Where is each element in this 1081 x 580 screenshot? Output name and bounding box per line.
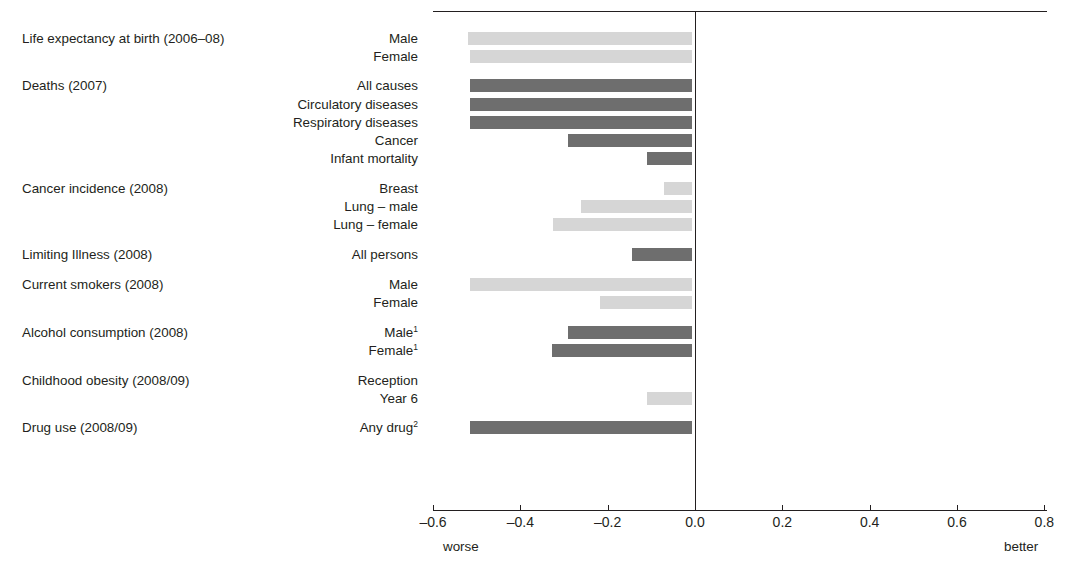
group-label: Cancer incidence (2008) — [22, 182, 168, 196]
item-label: Male — [160, 278, 418, 292]
axis-tick — [782, 505, 783, 511]
footnote-marker: 1 — [413, 341, 418, 351]
bar — [470, 421, 692, 434]
footnote-marker: 1 — [413, 323, 418, 333]
bar — [647, 392, 692, 405]
bar — [470, 79, 692, 92]
bar — [600, 296, 692, 309]
group-label: Deaths (2007) — [22, 79, 107, 93]
bar — [664, 182, 692, 195]
axis-tick — [608, 505, 609, 511]
axis-tick-label: 0.4 — [860, 514, 879, 530]
item-label: Respiratory diseases — [160, 116, 418, 130]
bar — [632, 248, 692, 261]
group-label: Drug use (2008/09) — [22, 421, 137, 435]
item-label: All causes — [160, 79, 418, 93]
item-label: Infant mortality — [160, 152, 418, 166]
bar — [552, 344, 692, 357]
axis-tick — [957, 505, 958, 511]
bar — [553, 218, 692, 231]
axis-tick-label: 0.6 — [947, 514, 966, 530]
axis-tick-label: 0.0 — [685, 514, 704, 530]
item-label: All persons — [160, 248, 418, 262]
footnote-marker: 2 — [413, 419, 418, 429]
item-label: Lung – female — [160, 218, 418, 232]
item-label: Female1 — [160, 344, 418, 358]
zero-baseline — [695, 12, 696, 510]
axis-tick — [433, 505, 434, 511]
group-label: Current smokers (2008) — [22, 278, 163, 292]
axis-tick-label: 0.2 — [773, 514, 792, 530]
bar — [470, 98, 692, 111]
item-label: Year 6 — [160, 392, 418, 406]
x-axis-line — [433, 510, 1047, 511]
axis-tick — [520, 505, 521, 511]
axis-tick-label: –0.6 — [419, 514, 446, 530]
bar — [468, 32, 692, 45]
item-label: Circulatory diseases — [160, 98, 418, 112]
item-label-column: MaleFemaleAll causesCirculatory diseases… — [160, 0, 418, 520]
item-label: Female — [160, 50, 418, 64]
plot-area — [433, 12, 1047, 512]
axis-tick-label: –0.2 — [594, 514, 621, 530]
bar — [647, 152, 692, 165]
item-label: Reception — [160, 374, 418, 388]
axis-caption-better: better — [1004, 539, 1038, 554]
axis-caption-worse: worse — [443, 539, 479, 554]
bar — [470, 116, 692, 129]
group-label: Limiting Illness (2008) — [22, 248, 152, 262]
item-label: Any drug2 — [160, 421, 418, 435]
axis-tick — [695, 505, 696, 511]
bar — [470, 50, 692, 63]
health-indicator-bar-chart: Life expectancy at birth (2006–08)Deaths… — [0, 0, 1081, 580]
item-label: Female — [160, 296, 418, 310]
axis-tick-label: –0.4 — [507, 514, 534, 530]
item-label: Breast — [160, 182, 418, 196]
item-label: Cancer — [160, 134, 418, 148]
bar — [470, 278, 692, 291]
axis-tick — [1044, 505, 1045, 511]
item-label: Lung – male — [160, 200, 418, 214]
axis-tick-label: 0.8 — [1035, 514, 1054, 530]
axis-tick — [870, 505, 871, 511]
item-label: Male — [160, 32, 418, 46]
bar — [568, 326, 692, 339]
bar — [568, 134, 692, 147]
bar — [581, 200, 692, 213]
item-label: Male1 — [160, 326, 418, 340]
